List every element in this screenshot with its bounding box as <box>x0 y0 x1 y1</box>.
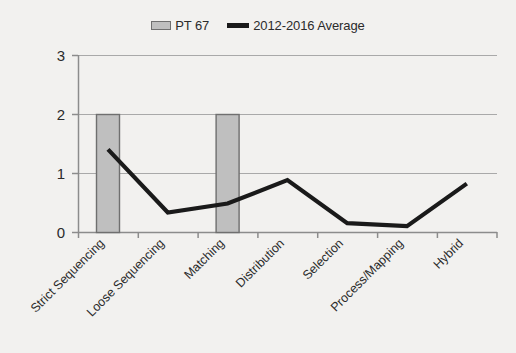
y-axis-ticks <box>72 56 78 233</box>
y-tick-label-2: 2 <box>57 106 65 123</box>
bar-strict-sequencing[interactable] <box>97 115 120 233</box>
line-series-average[interactable] <box>108 149 467 226</box>
cat-label-selection: Selection <box>300 236 346 282</box>
bar-matching[interactable] <box>216 115 239 233</box>
y-tick-label-1: 1 <box>57 165 65 182</box>
gridlines <box>78 56 497 174</box>
y-tick-label-0: 0 <box>57 224 65 241</box>
y-axis-labels: 3 2 1 0 <box>57 47 65 241</box>
cat-label-distribution: Distribution <box>233 236 287 290</box>
cat-label-matching: Matching <box>181 236 227 282</box>
x-axis-category-labels: Strict Sequencing Loose Sequencing Match… <box>28 236 466 319</box>
chart-container: PT 67 2012-2016 Average <box>0 0 516 353</box>
plot-area: 3 2 1 0 Strict Sequencing Loose Sequenci… <box>0 0 516 353</box>
cat-label-hybrid: Hybrid <box>431 236 466 271</box>
chart-svg: 3 2 1 0 Strict Sequencing Loose Sequenci… <box>0 0 516 353</box>
y-tick-label-3: 3 <box>57 47 65 64</box>
